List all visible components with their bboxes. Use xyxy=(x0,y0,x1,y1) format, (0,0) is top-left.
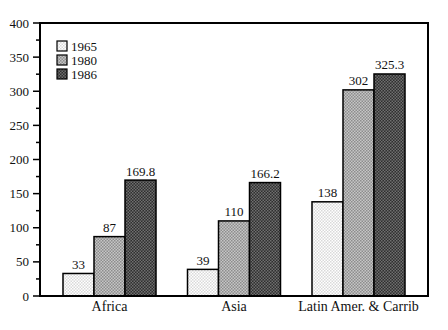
y-axis-tick-label: 200 xyxy=(10,152,30,167)
category-label: Africa xyxy=(92,299,129,314)
y-axis-tick-label: 0 xyxy=(23,289,30,304)
y-axis-tick-label: 50 xyxy=(16,254,29,269)
bar-1965-asia xyxy=(188,269,219,296)
legend-label: 1980 xyxy=(71,53,97,68)
bar-value-label: 110 xyxy=(224,204,243,219)
bar-1965-africa xyxy=(63,273,94,296)
y-axis-tick-label: 400 xyxy=(10,16,30,31)
legend-swatch-1986 xyxy=(57,69,67,79)
bar-value-label: 325.3 xyxy=(375,57,404,72)
bar-value-label: 33 xyxy=(72,257,85,272)
bar-value-label: 39 xyxy=(197,253,210,268)
chart-figure: 0501001502002503003504003387169.8Africa3… xyxy=(0,0,448,330)
bar-1980-africa xyxy=(94,237,125,296)
grouped-bar-chart: 0501001502002503003504003387169.8Africa3… xyxy=(0,0,448,330)
bar-1965-latin-amer-carrib xyxy=(312,202,343,296)
bar-value-label: 138 xyxy=(318,185,338,200)
legend-label: 1986 xyxy=(71,67,98,82)
bar-1986-latin-amer-carrib xyxy=(374,74,405,296)
category-label: Latin Amer. & Carrib xyxy=(298,299,419,314)
y-axis-tick-label: 100 xyxy=(10,220,30,235)
bar-1980-latin-amer-carrib xyxy=(343,90,374,296)
legend-swatch-1980 xyxy=(57,55,67,65)
y-axis-tick-label: 250 xyxy=(10,118,30,133)
bar-value-label: 169.8 xyxy=(126,164,155,179)
bar-1986-africa xyxy=(125,180,156,296)
bar-1980-asia xyxy=(219,221,250,296)
bar-value-label: 87 xyxy=(103,220,117,235)
y-axis-tick-label: 300 xyxy=(10,84,30,99)
bar-value-label: 302 xyxy=(349,73,369,88)
category-label: Asia xyxy=(221,299,247,314)
bar-1986-asia xyxy=(250,183,281,296)
legend-label: 1965 xyxy=(71,39,97,54)
bar-value-label: 166.2 xyxy=(250,166,279,181)
y-axis-tick-label: 350 xyxy=(10,50,30,65)
legend-swatch-1965 xyxy=(57,41,67,51)
y-axis-tick-label: 150 xyxy=(10,186,30,201)
